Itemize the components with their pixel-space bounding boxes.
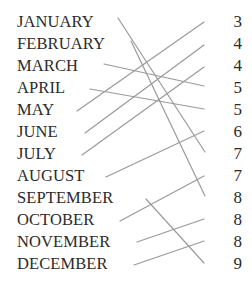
number-value-n5b[interactable]: 5	[234, 101, 243, 119]
month-label-mar[interactable]: MARCH	[17, 57, 78, 75]
month-label-oct[interactable]: OCTOBER	[17, 211, 94, 229]
matching-diagram: JANUARYFEBRUARYMARCHAPRILMAYJUNEJULYAUGU…	[0, 0, 252, 290]
number-value-n4a[interactable]: 4	[234, 35, 243, 53]
month-label-may[interactable]: MAY	[17, 101, 54, 119]
number-value-n6[interactable]: 6	[234, 123, 243, 141]
month-label-jul[interactable]: JULY	[17, 145, 56, 163]
number-value-n7b[interactable]: 7	[234, 167, 243, 185]
number-value-n8a[interactable]: 8	[234, 189, 243, 207]
month-label-dec[interactable]: DECEMBER	[17, 255, 108, 273]
number-value-n5a[interactable]: 5	[234, 79, 243, 97]
number-value-n3[interactable]: 3	[234, 13, 243, 31]
number-value-n4b[interactable]: 4	[234, 57, 243, 75]
month-label-nov[interactable]: NOVEMBER	[17, 233, 110, 251]
month-labels-column: JANUARYFEBRUARYMARCHAPRILMAYJUNEJULYAUGU…	[0, 0, 180, 290]
month-label-feb[interactable]: FEBRUARY	[17, 35, 105, 53]
number-value-n7a[interactable]: 7	[234, 145, 243, 163]
month-label-sep[interactable]: SEPTEMBER	[17, 189, 113, 207]
number-value-n9[interactable]: 9	[234, 255, 243, 273]
month-label-jun[interactable]: JUNE	[17, 123, 58, 141]
number-value-n8c[interactable]: 8	[234, 233, 243, 251]
month-label-jan[interactable]: JANUARY	[17, 13, 94, 31]
month-label-apr[interactable]: APRIL	[17, 79, 65, 97]
month-label-aug[interactable]: AUGUST	[17, 167, 85, 185]
number-values-column: 344556778889	[212, 0, 252, 290]
number-value-n8b[interactable]: 8	[234, 211, 243, 229]
